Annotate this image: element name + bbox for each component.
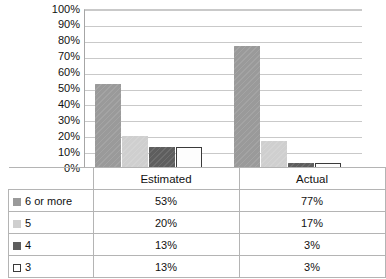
table-cell-value: 3% xyxy=(239,256,385,278)
y-tick-label: 90% xyxy=(28,19,80,30)
y-tick-label: 20% xyxy=(28,131,80,142)
table-header-row: EstimatedActual xyxy=(9,168,386,190)
legend-entry: 5 xyxy=(9,212,94,234)
bar-group xyxy=(85,10,224,168)
table-cell-value: 13% xyxy=(93,234,239,256)
bar xyxy=(234,46,260,168)
bar xyxy=(176,147,202,168)
legend-swatch-icon xyxy=(13,198,21,206)
table-cell-value: 20% xyxy=(93,212,239,234)
legend-label: 5 xyxy=(25,217,31,229)
table-cell-value: 13% xyxy=(93,256,239,278)
bar-group xyxy=(224,10,362,168)
table-cell-value: 17% xyxy=(239,212,385,234)
bar xyxy=(95,84,121,168)
y-tick-label: 10% xyxy=(28,147,80,158)
y-tick-label: 70% xyxy=(28,51,80,62)
plot-area xyxy=(84,9,362,168)
y-tick-label: 80% xyxy=(28,35,80,46)
legend-label: 4 xyxy=(25,239,31,251)
legend-swatch-icon xyxy=(13,242,21,250)
table-cell-value: 3% xyxy=(239,234,385,256)
bar xyxy=(149,147,175,168)
legend-label: 6 or more xyxy=(25,195,72,207)
table-row: 413%3% xyxy=(9,234,386,256)
table-cell-value: 53% xyxy=(93,190,239,212)
y-tick-label: 30% xyxy=(28,115,80,126)
bars-container xyxy=(85,10,362,168)
y-tick-label: 100% xyxy=(28,4,80,15)
table-column-header: Estimated xyxy=(93,168,239,190)
bar xyxy=(122,136,148,168)
bar-chart: 0%10%20%30%40%50%60%70%80%90%100% xyxy=(0,0,366,175)
legend-entry: 3 xyxy=(9,256,94,278)
y-axis: 0%10%20%30%40%50%60%70%80%90%100% xyxy=(28,4,80,170)
chart-data-table: EstimatedActual6 or more53%77%520%17%413… xyxy=(8,167,386,278)
table-row: 520%17% xyxy=(9,212,386,234)
table-cell-value: 77% xyxy=(239,190,385,212)
table-row: 6 or more53%77% xyxy=(9,190,386,212)
legend-entry: 4 xyxy=(9,234,94,256)
table-corner-cell xyxy=(9,168,94,190)
table-column-header: Actual xyxy=(239,168,385,190)
legend-entry: 6 or more xyxy=(9,190,94,212)
bar xyxy=(261,141,287,168)
legend-label: 3 xyxy=(25,261,31,273)
y-tick-label: 60% xyxy=(28,67,80,78)
table-row: 313%3% xyxy=(9,256,386,278)
legend-swatch-icon xyxy=(13,220,21,228)
y-tick-label: 40% xyxy=(28,99,80,110)
legend-swatch-icon xyxy=(13,264,21,272)
y-tick-label: 50% xyxy=(28,83,80,94)
